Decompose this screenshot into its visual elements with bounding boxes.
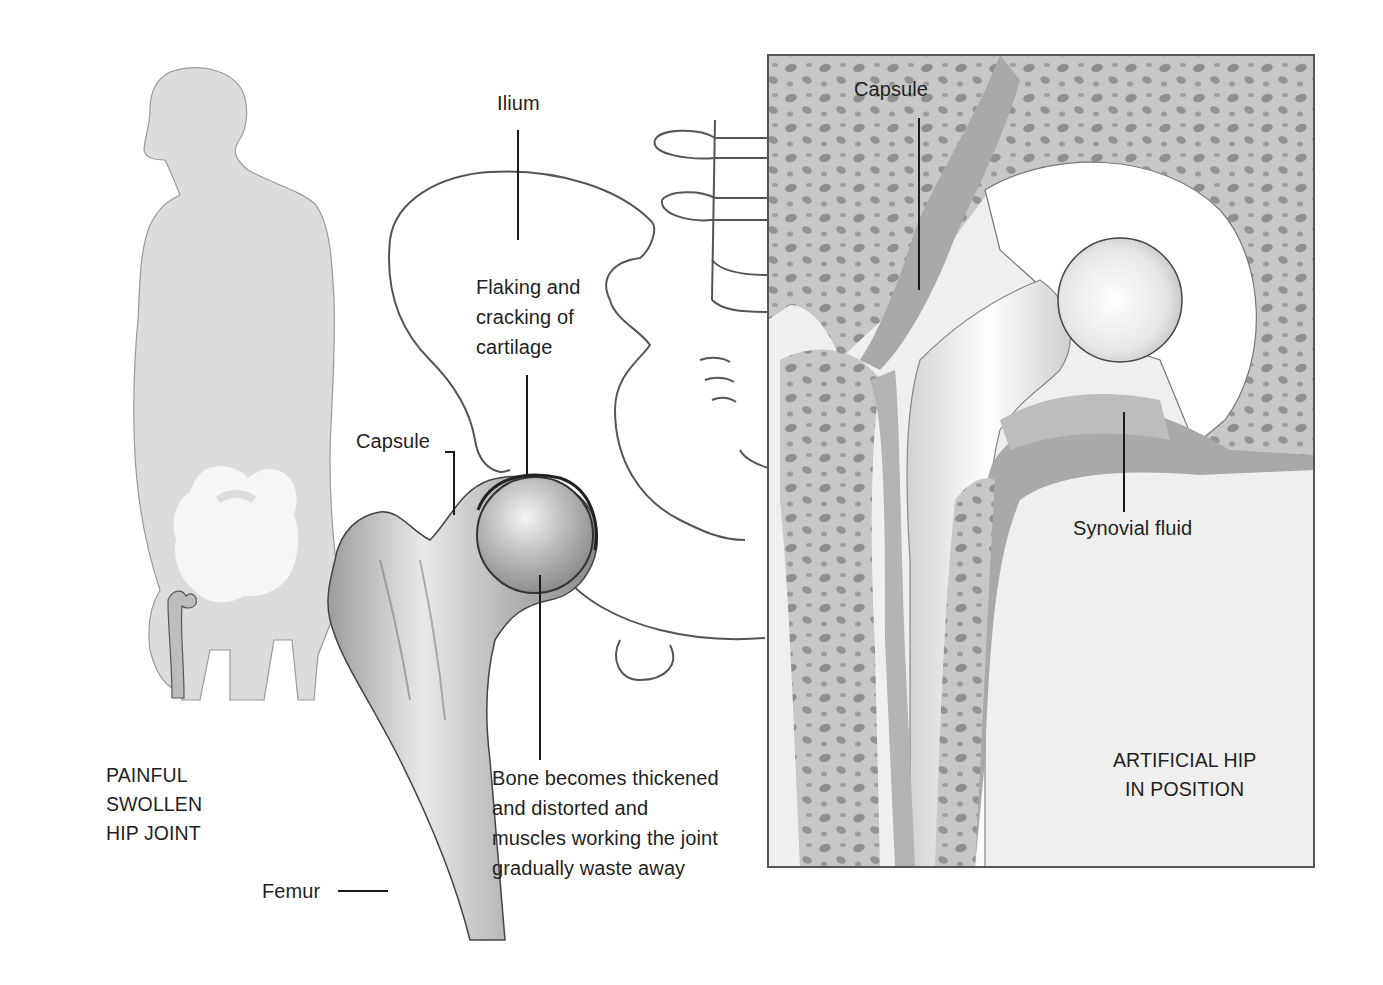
- label-cartilage-line-3: cartilage: [476, 332, 581, 362]
- caption-painful-swollen-hip: PAINFUL SWOLLEN HIP JOINT: [106, 761, 202, 848]
- label-capsule-arthritic: Capsule: [356, 426, 430, 456]
- label-cartilage-line-1: Flaking and: [476, 272, 581, 302]
- label-cartilage: Flaking and cracking of cartilage: [476, 272, 581, 362]
- label-cartilage-line-2: cracking of: [476, 302, 581, 332]
- label-femur: Femur: [262, 876, 320, 906]
- human-silhouette: [134, 68, 340, 700]
- label-bone-line-3: muscles working the joint: [492, 823, 719, 853]
- caption-line-2: SWOLLEN: [106, 790, 202, 819]
- caption-artificial-line-1: ARTIFICIAL HIP: [1113, 746, 1256, 775]
- label-bone-line-2: and distorted and: [492, 793, 719, 823]
- caption-line-1: PAINFUL: [106, 761, 202, 790]
- diagram-stage: Ilium Flaking and cracking of cartilage …: [0, 0, 1383, 985]
- label-bone-thickened: Bone becomes thickened and distorted and…: [492, 763, 719, 883]
- caption-artificial-hip: ARTIFICIAL HIP IN POSITION: [1113, 746, 1256, 804]
- caption-artificial-line-2: IN POSITION: [1113, 775, 1256, 804]
- label-synovial-fluid: Synovial fluid: [1073, 513, 1192, 543]
- label-bone-line-4: gradually waste away: [492, 853, 719, 883]
- label-capsule-artificial: Capsule: [854, 74, 928, 104]
- label-ilium: Ilium: [497, 88, 540, 118]
- label-bone-line-1: Bone becomes thickened: [492, 763, 719, 793]
- caption-line-3: HIP JOINT: [106, 819, 202, 848]
